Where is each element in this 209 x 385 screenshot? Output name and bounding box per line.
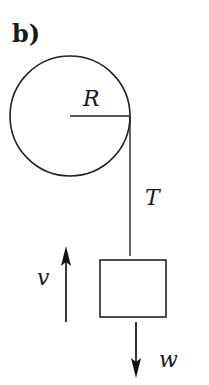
- mass-block: [100, 260, 166, 317]
- weight-label: w: [159, 347, 178, 372]
- tension-label: T: [145, 185, 162, 210]
- radius-label: R: [82, 86, 100, 111]
- velocity-label: v: [37, 265, 50, 290]
- panel-label: b): [12, 19, 40, 48]
- pulley-diagram: b) R T v w: [0, 0, 209, 385]
